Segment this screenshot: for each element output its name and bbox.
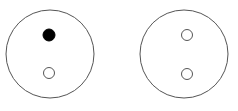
hollow-bottom-dot [182,69,193,80]
right-circle [140,10,228,98]
right-circle-outline [140,10,228,98]
left-circle-outline [6,10,94,98]
hollow-top-dot [182,30,193,41]
filled-top-dot [43,29,55,41]
hollow-bottom-dot [44,68,55,79]
left-circle [6,10,94,98]
diagram-canvas [0,0,238,111]
